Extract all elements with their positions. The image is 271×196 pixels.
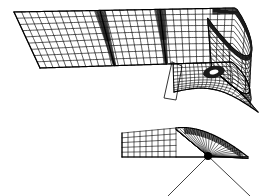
wireframe-surface-figure: [0, 0, 271, 196]
figure-root: [0, 0, 271, 196]
